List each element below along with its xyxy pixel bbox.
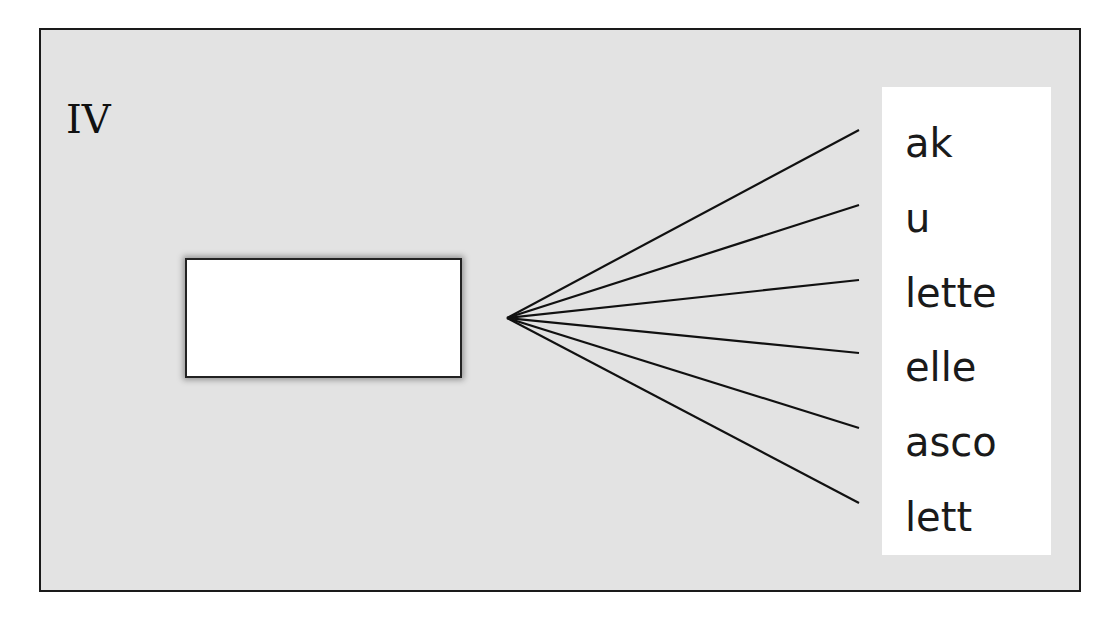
- suffix-item: ak: [905, 119, 953, 167]
- connector-line: [507, 205, 859, 318]
- suffix-item: asco: [905, 418, 997, 466]
- connector-line: [507, 280, 859, 318]
- connector-line: [507, 130, 859, 318]
- suffix-item: u: [905, 194, 930, 242]
- suffix-item: elle: [905, 343, 976, 391]
- suffix-item: lett: [905, 493, 972, 541]
- suffix-item: lette: [905, 269, 997, 317]
- suffix-list: ak u lette elle asco lett: [882, 87, 1051, 555]
